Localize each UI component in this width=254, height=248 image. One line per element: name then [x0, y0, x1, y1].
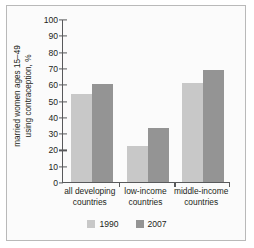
- bar-2007-2[interactable]: [148, 128, 169, 182]
- x-axis-category-label: low-incomecountries: [118, 186, 174, 208]
- x-axis-category-line-1: middle-income: [174, 186, 228, 196]
- y-axis-tick-label: 40: [48, 113, 58, 123]
- legend-label-2007: 2007: [148, 219, 167, 229]
- legend-label-1990: 1990: [99, 219, 118, 229]
- x-axis-category-line-2: countries: [118, 197, 174, 208]
- y-axis-title-line-1: married women ages 15–49: [13, 45, 22, 147]
- y-axis-tick-label: 50: [48, 97, 58, 107]
- y-axis-tick-label: 70: [48, 64, 58, 74]
- x-axis-category-line-2: countries: [62, 197, 118, 208]
- y-axis-tick-mark: [59, 182, 64, 183]
- bar-1990-2[interactable]: [127, 146, 148, 182]
- bar-2007-1[interactable]: [92, 84, 113, 182]
- plot-area: 0102030405060708090100: [62, 20, 229, 183]
- x-axis-category-label: all developingcountries: [62, 186, 118, 208]
- y-axis-title: married women ages 15–49 using contracep…: [13, 14, 34, 178]
- bar-1990-3[interactable]: [182, 83, 203, 182]
- y-axis-tick-label: 20: [48, 145, 58, 155]
- y-axis-title-container: married women ages 15–49 using contracep…: [7, 6, 41, 186]
- legend-swatch-1990-icon: [87, 220, 95, 228]
- x-axis-category-line-1: all developing: [64, 186, 115, 196]
- y-axis-title-line-2: using contraception, %: [24, 14, 35, 178]
- bar-group: [174, 20, 230, 182]
- legend-item-2007[interactable]: 2007: [136, 219, 167, 229]
- y-axis-tick-label: 90: [48, 31, 58, 41]
- legend-swatch-2007-icon: [136, 220, 144, 228]
- y-axis-tick-label: 10: [48, 162, 58, 172]
- bar-1990-1[interactable]: [71, 94, 92, 182]
- bar-2007-3[interactable]: [203, 70, 224, 182]
- chart-legend: 1990 2007: [7, 219, 247, 229]
- legend-item-1990[interactable]: 1990: [87, 219, 118, 229]
- y-axis-tick-label: 100: [44, 15, 58, 25]
- y-axis-tick-label: 0: [53, 178, 58, 188]
- y-axis-tick-label: 80: [48, 48, 58, 58]
- x-axis-category-line-1: low-income: [124, 186, 166, 196]
- y-axis-tick-label: 60: [48, 80, 58, 90]
- x-axis-category-line-2: countries: [173, 197, 229, 208]
- y-axis-tick-label: 30: [48, 129, 58, 139]
- x-axis-labels: all developingcountrieslow-incomecountri…: [62, 186, 229, 216]
- chart-figure: married women ages 15–49 using contracep…: [6, 5, 246, 241]
- bar-group: [63, 20, 119, 182]
- x-axis-category-label: middle-incomecountries: [173, 186, 229, 208]
- bar-group: [119, 20, 175, 182]
